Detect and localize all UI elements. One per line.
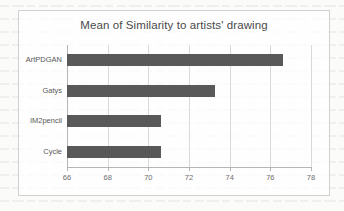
x-tick-label: 78 xyxy=(307,173,315,182)
x-tick-label: 66 xyxy=(63,173,71,182)
chart-title: Mean of Similarity to artists' drawing xyxy=(19,19,329,31)
bar[interactable]: IM2pencil xyxy=(67,115,161,127)
bar[interactable]: Cycle xyxy=(67,146,161,158)
x-tick-label: 76 xyxy=(266,173,274,182)
x-tick-mark xyxy=(270,167,271,171)
x-tick-mark xyxy=(311,167,312,171)
bar[interactable]: ArtPDGAN xyxy=(67,54,283,66)
bar[interactable]: Gatys xyxy=(67,85,215,97)
category-label: IM2pencil xyxy=(30,115,62,127)
x-tick-mark xyxy=(67,167,68,171)
x-tick-mark xyxy=(189,167,190,171)
x-tick-label: 70 xyxy=(144,173,152,182)
plot-area: ArtPDGANGatysIM2pencilCycle xyxy=(67,45,311,167)
x-tick-mark xyxy=(230,167,231,171)
category-label: ArtPDGAN xyxy=(26,54,62,66)
x-tick-label: 74 xyxy=(225,173,233,182)
x-tick-mark xyxy=(108,167,109,171)
x-tick-mark xyxy=(148,167,149,171)
gridline xyxy=(311,45,312,167)
x-tick-label: 68 xyxy=(103,173,111,182)
category-label: Cycle xyxy=(43,146,62,158)
chart-container: Mean of Similarity to artists' drawing A… xyxy=(18,10,330,196)
x-tick-label: 72 xyxy=(185,173,193,182)
category-label: Gatys xyxy=(42,85,62,97)
